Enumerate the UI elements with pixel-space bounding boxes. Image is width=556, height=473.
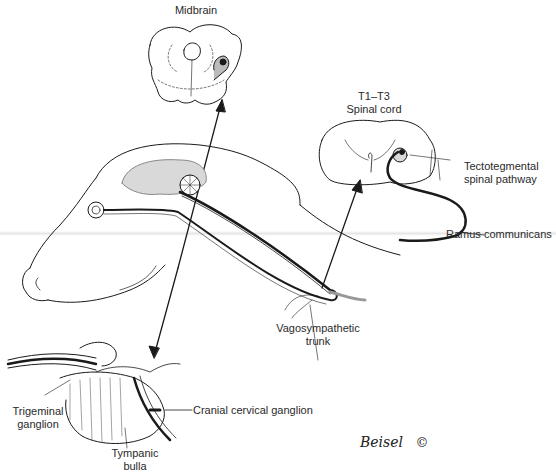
label-trigeminal-line2: ganglion (8, 418, 68, 431)
label-cranial-cervical-ganglion: Cranial cervical ganglion (193, 404, 313, 417)
signature-text: Beisel (360, 434, 403, 450)
label-spinal-cord: T1–T3 Spinal cord (334, 90, 414, 116)
label-ramus-communicans: Ramus communicans (446, 228, 552, 241)
label-vagosympathetic-line2: trunk (268, 335, 368, 348)
label-spinal-cord-segment: T1–T3 (334, 90, 414, 103)
label-trigeminal-line1: Trigeminal (8, 405, 68, 418)
label-tectotegmental: Tectotegmental spinal pathway (464, 160, 539, 186)
label-tympanic-line1: Tympanic (110, 447, 160, 460)
label-vagosympathetic-line1: Vagosympathetic (268, 322, 368, 335)
label-tympanic-line2: bulla (110, 460, 160, 473)
label-tympanic-bulla: Tympanic bulla (110, 447, 160, 473)
dog-head-outline (23, 144, 400, 303)
label-trigeminal-ganglion: Trigeminal ganglion (8, 405, 68, 431)
label-spinal-cord-title: Spinal cord (334, 103, 414, 116)
label-tectotegmental-line2: spinal pathway (464, 173, 539, 186)
label-vagosympathetic-trunk: Vagosympathetic trunk (268, 322, 368, 348)
artist-signature: Beisel © (360, 434, 428, 450)
midbrain-section (149, 25, 242, 104)
spinal-cord-section (319, 120, 466, 240)
copyright-icon: © (415, 435, 428, 450)
label-tectotegmental-line1: Tectotegmental (464, 160, 539, 173)
label-midbrain: Midbrain (166, 4, 226, 17)
skull-base-detail (8, 342, 192, 448)
